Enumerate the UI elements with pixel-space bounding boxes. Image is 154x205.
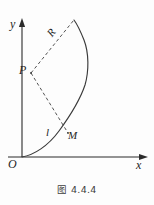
point-p-label: P — [19, 64, 26, 76]
x-axis-label: x — [136, 159, 141, 171]
point-m-label: M — [68, 130, 77, 141]
figure-canvas — [0, 0, 154, 205]
y-axis-arrowhead — [19, 18, 25, 27]
curve-path — [22, 20, 88, 157]
figure-container: y x O P M l R 图 4.4.4 — [0, 0, 154, 205]
arc-length-label: l — [46, 127, 49, 138]
y-axis-label: y — [10, 18, 15, 30]
chord-segment — [31, 73, 68, 133]
origin-label: O — [8, 158, 17, 170]
point-p-marker — [30, 72, 32, 74]
figure-caption: 图 4.4.4 — [0, 182, 154, 196]
